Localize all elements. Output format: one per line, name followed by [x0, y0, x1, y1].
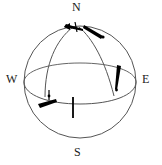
slip-vector-arrow-east [115, 65, 121, 91]
slip-vector-arrow-southwest [38, 90, 57, 108]
nodal-plane-arc-left [45, 27, 73, 97]
nodal-plane-arc-right [79, 27, 114, 96]
sphere-diagram [0, 0, 162, 165]
label-south: S [74, 146, 81, 158]
label-north: N [72, 1, 81, 13]
slip-vector-arrow-north-left [64, 23, 83, 31]
equator-ellipse [24, 82, 136, 104]
label-west: W [6, 73, 17, 85]
label-east: E [142, 73, 149, 85]
slip-vector-arrow-northeast [83, 25, 105, 39]
sphere-outline [24, 26, 136, 138]
